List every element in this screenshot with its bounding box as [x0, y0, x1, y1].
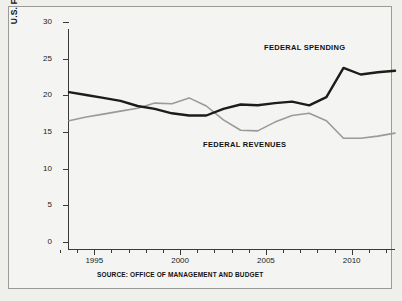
source-note: SOURCE: OFFICE OF MANAGEMENT AND BUDGET	[97, 271, 263, 278]
chart-frame: U.S. FEDERAL GOVERNMENT FINANCES (As a P…	[8, 6, 392, 289]
series-line-federal-revenues	[69, 98, 395, 138]
series-line-federal-spending	[69, 68, 395, 116]
series-label-federal-spending: FEDERAL SPENDING	[264, 43, 345, 52]
series-label-federal-revenues: FEDERAL REVENUES	[203, 140, 286, 149]
chart-screenshot: U.S. FEDERAL GOVERNMENT FINANCES (As a P…	[0, 0, 402, 301]
